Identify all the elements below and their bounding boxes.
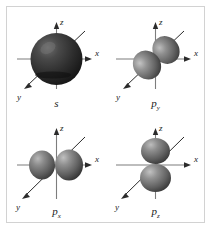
axis-label-x: x: [193, 48, 198, 58]
orbital-panel-px: z x y px: [7, 115, 106, 223]
orbital-label-subscript: z: [157, 212, 160, 220]
axis-label-z: z: [158, 123, 163, 133]
orbital-label-subscript: x: [58, 212, 61, 220]
orbital-label-subscript: y: [157, 104, 160, 112]
orbital-label-s: s: [7, 97, 106, 112]
orbital-label-base: s: [54, 97, 58, 109]
orbital-label-py: py: [106, 97, 205, 112]
axis-label-z: z: [158, 17, 163, 27]
axis-label-x: x: [94, 154, 99, 164]
orbital-lobe-s: [31, 33, 83, 85]
orbital-label-pz: pz: [106, 205, 205, 220]
orbital-panel-py: z x y py: [106, 7, 205, 115]
orbital-lobe-px-right: [55, 150, 83, 181]
orbital-label-px: px: [7, 205, 106, 220]
orbital-lobe-pz-top: [141, 138, 170, 164]
axis-label-x: x: [193, 154, 198, 164]
orbital-panel-s: z x y s: [7, 7, 106, 115]
orbital-panel-pz: z x y pz: [106, 115, 205, 223]
axis-label-x: x: [94, 48, 99, 58]
axis-label-z: z: [59, 17, 64, 27]
orbital-lobe-px-left: [29, 151, 55, 180]
axis-label-z: z: [59, 123, 64, 133]
figure-frame: z x y s: [6, 6, 205, 223]
orbital-lobe-pz-bottom: [140, 164, 171, 192]
